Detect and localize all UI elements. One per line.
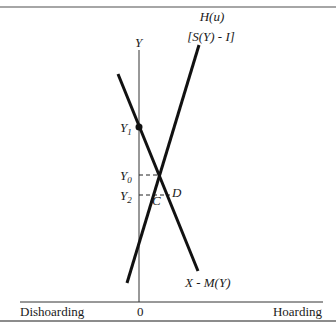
point-c-label: C [152, 193, 161, 208]
point-d-label: D [171, 185, 182, 200]
curve-down-label: X - M(Y) [184, 275, 231, 290]
y-axis-label: Y [135, 35, 144, 50]
trade-balance-line [118, 74, 198, 271]
curve-up-label-2: [S(Y) - I] [187, 29, 235, 44]
hoarding-diagram: Y H(u) [S(Y) - I] Y1 Y0 Y2 C D X - M(Y) … [0, 0, 336, 327]
hoarding-label: Hoarding [273, 304, 323, 319]
y0-label: Y0 [120, 168, 132, 185]
y1-point [136, 124, 143, 131]
y2-label: Y2 [120, 188, 132, 205]
curve-up-label-1: H(u) [199, 9, 225, 24]
dishoarding-label: Dishoarding [20, 304, 85, 319]
y1-label: Y1 [120, 120, 132, 137]
origin-label: 0 [137, 304, 144, 319]
